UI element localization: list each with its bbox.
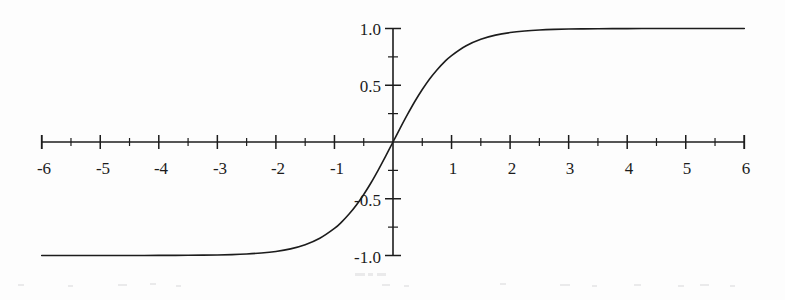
x-tick-label-4: 4 <box>625 160 634 177</box>
x-tick-label--3: -3 <box>213 160 227 177</box>
x-tick-label--4: -4 <box>154 160 168 177</box>
x-tick-label--6: -6 <box>37 160 51 177</box>
y-tick-label--1.0: -1.0 <box>354 249 381 266</box>
x-tick-label-6: 6 <box>742 160 751 177</box>
x-tick-label--2: -2 <box>271 160 285 177</box>
y-tick-label-0.5: 0.5 <box>360 78 381 95</box>
x-tick-label-3: 3 <box>566 160 575 177</box>
x-tick-label--1: -1 <box>330 160 344 177</box>
x-tick-label-5: 5 <box>683 160 692 177</box>
x-tick-label-1: 1 <box>449 160 458 177</box>
plot-canvas <box>0 0 785 300</box>
tanh-function-plot: -6 -5 -4 -3 -2 -1 1 2 3 4 5 6 1.0 0.5 -0… <box>0 0 785 300</box>
y-tick-label--0.5: -0.5 <box>354 192 381 209</box>
y-tick-label-1.0: 1.0 <box>360 21 381 38</box>
x-tick-label-2: 2 <box>508 160 517 177</box>
x-tick-label--5: -5 <box>96 160 110 177</box>
